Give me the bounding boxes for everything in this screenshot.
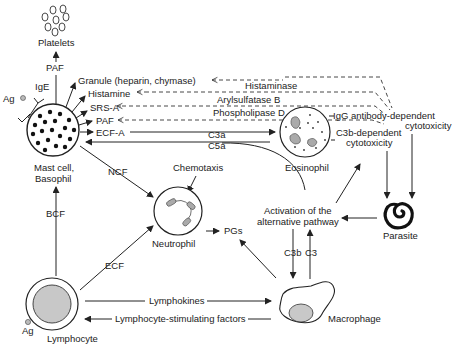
c5a-label: C5a — [208, 140, 226, 151]
lymphokines-label: Lymphokines — [149, 295, 205, 306]
granule-label: Granule (heparin, chymase) — [78, 75, 196, 86]
ncf-label: NCF — [108, 166, 128, 177]
macrophage-label: Macrophage — [328, 313, 381, 324]
alt-pathway-label-1: Activation of the — [264, 205, 332, 216]
srs-a-label: SRS-A — [90, 102, 120, 113]
ag-top-label: Ag — [3, 93, 15, 104]
arylsulfatase-label: Arylsulfatase B — [217, 94, 280, 105]
mast-cell-icon — [27, 104, 79, 156]
parasite-icon — [385, 204, 412, 228]
phospholipase-label: Phospholipase D — [213, 107, 285, 118]
paf-label: PAF — [96, 115, 114, 126]
bcf-label: BCF — [46, 208, 65, 219]
ecf-a-label: ECF-A — [96, 127, 125, 138]
antigen-icon — [21, 96, 26, 101]
lymphocyte-label: Lymphocyte — [47, 333, 98, 344]
lymphocyte-icon — [26, 278, 78, 330]
eosinophil-icon — [280, 107, 330, 157]
ag-bottom-label: Ag — [22, 325, 34, 336]
immune-diagram: Platelets PAF IgE Ag Mast cell, Basophil… — [0, 0, 461, 348]
chemotaxis-label: Chemotaxis — [173, 162, 223, 173]
paf-platelets-label: PAF — [46, 62, 64, 73]
platelets-label: Platelets — [38, 37, 75, 48]
c3-label: C3 — [305, 247, 317, 258]
platelets-icon — [42, 5, 69, 36]
alt-pathway-label-2: alternative pathway — [257, 216, 339, 227]
igg-cytotoxicity-label-2: cytotoxicity — [405, 120, 452, 131]
histamine-label: Histamine — [88, 88, 130, 99]
eosinophil-label: Eosinophil — [285, 162, 329, 173]
neutrophil-label: Neutrophil — [152, 238, 195, 249]
macrophage-icon — [280, 282, 335, 323]
histaminase-label: Histaminase — [245, 80, 297, 91]
basophil-label: Basophil — [35, 173, 71, 184]
mast-cell-label: Mast cell, — [34, 162, 74, 173]
parasite-label: Parasite — [383, 230, 418, 241]
neutrophil-icon — [154, 187, 202, 235]
antigen-bottom-icon — [25, 319, 30, 324]
ige-label: IgE — [35, 81, 49, 92]
pgs-label: PGs — [224, 225, 243, 236]
c3a-label: C3a — [208, 129, 226, 140]
ecf-label: ECF — [105, 260, 124, 271]
c3b-cytotoxicity-label-2: cytotoxicity — [346, 137, 393, 148]
c3b-label: C3b — [284, 247, 301, 258]
lymphocyte-stim-label: Lymphocyte-stimulating factors — [115, 313, 246, 324]
